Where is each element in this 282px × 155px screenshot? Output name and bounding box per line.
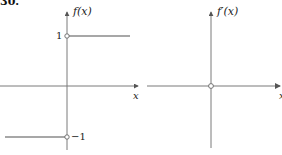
right-graph xyxy=(147,12,280,148)
open-circle-origin xyxy=(209,84,214,89)
left-graph xyxy=(0,12,138,150)
figure: 30. f(x) 1 x xyxy=(0,0,282,155)
graphs-canvas xyxy=(0,0,282,155)
left-y-axis-label: f(x) xyxy=(73,6,92,17)
right-y-axis-label: f′(x) xyxy=(217,6,238,17)
right-x-axis-label: x xyxy=(279,91,282,101)
open-circle-upper xyxy=(65,34,69,38)
tick-label-1: 1 xyxy=(56,31,62,41)
tick-label-neg1: −1 xyxy=(71,132,86,142)
open-circle-lower xyxy=(65,135,69,139)
left-x-axis-label: x xyxy=(133,91,139,101)
